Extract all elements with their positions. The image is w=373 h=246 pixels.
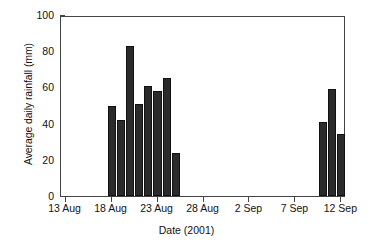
bar xyxy=(319,122,327,196)
y-tick-label: 60 xyxy=(14,81,54,93)
y-axis-title: Average daily rainfall (mm) xyxy=(22,14,34,194)
y-tick-label: 80 xyxy=(14,45,54,57)
bar xyxy=(172,153,180,196)
plot-area xyxy=(60,16,345,197)
x-tick-label: 12 Sep xyxy=(310,202,370,214)
y-tick-label: 0 xyxy=(14,190,54,202)
bar xyxy=(117,120,125,196)
y-tick-label: 20 xyxy=(14,154,54,166)
bar xyxy=(108,106,116,197)
bar xyxy=(328,89,336,196)
rainfall-bar-chart: Average daily rainfall (mm) 020406080100… xyxy=(0,0,373,246)
y-tick-label: 40 xyxy=(14,118,54,130)
bar xyxy=(153,91,161,196)
bar xyxy=(126,46,134,196)
x-axis-title: Date (2001) xyxy=(0,224,373,236)
y-tick-label: 100 xyxy=(14,9,54,21)
bar xyxy=(163,78,171,196)
bar xyxy=(337,134,345,196)
bar xyxy=(144,86,152,196)
bar xyxy=(135,104,143,196)
